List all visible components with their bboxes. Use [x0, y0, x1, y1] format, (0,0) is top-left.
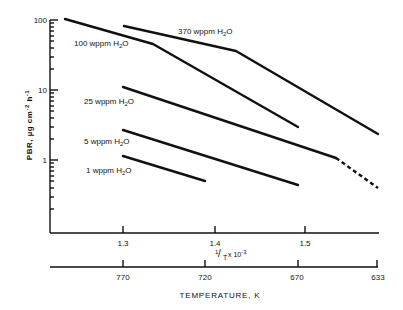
label-100-wppm: 100 wppm H2O: [74, 39, 129, 49]
label-370-wppm: 370 wppm H2O: [178, 27, 233, 37]
series-25-wppm-extrapolated: [336, 158, 378, 188]
temp-tick-770: 770: [116, 273, 130, 282]
temp-tick-720: 720: [198, 273, 212, 282]
series-25-wppm: [123, 87, 336, 158]
series-1-wppm: [123, 156, 205, 181]
y-tick-100: 100: [34, 16, 48, 25]
x-axis: [50, 226, 379, 233]
x-axis-label: 1 / T x 10-3: [215, 248, 247, 261]
y-tick-1: 1: [43, 156, 48, 165]
svg-text:PBR, µg cm-2 h-1: PBR, µg cm-2 h-1: [24, 90, 34, 161]
svg-text:/: /: [218, 248, 221, 259]
series-labels: 370 wppm H2O 100 wppm H2O 25 wppm H2O 5 …: [74, 27, 233, 176]
label-5-wppm: 5 wppm H2O: [84, 137, 130, 147]
x-tick-labels: 1.3 1.4 1.5: [117, 239, 311, 248]
y-axis: [50, 20, 58, 233]
y-tick-10: 10: [38, 86, 47, 95]
label-1-wppm: 1 wppm H2O: [86, 166, 132, 176]
x-tick-1.5: 1.5: [299, 239, 311, 248]
temperature-axis: [50, 260, 378, 267]
label-25-wppm: 25 wppm H2O: [84, 97, 134, 107]
x-tick-1.4: 1.4: [209, 239, 221, 248]
series-370-wppm: [124, 26, 378, 134]
y-tick-labels: 100 10 1: [34, 16, 48, 165]
series-5-wppm: [123, 130, 298, 185]
y-axis-label: PBR, µg cm-2 h-1: [24, 90, 34, 161]
temp-tick-633: 633: [371, 273, 385, 282]
temp-tick-670: 670: [290, 273, 304, 282]
chart: 100 10 1 PBR, µg cm-2 h-1 1.3 1.4 1.5 1 …: [0, 0, 403, 310]
x-tick-1.3: 1.3: [117, 239, 129, 248]
temperature-axis-label: TEMPERATURE, K: [180, 291, 261, 300]
svg-text:x 10-3: x 10-3: [228, 249, 247, 258]
temperature-tick-labels: 770 720 670 633: [116, 273, 385, 282]
